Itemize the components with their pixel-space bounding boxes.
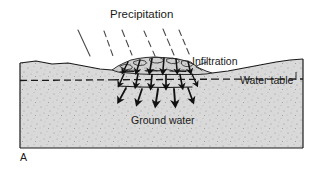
panel-letter: A bbox=[20, 152, 27, 163]
figure-panel: Precipitation Infiltration Water table G… bbox=[0, 0, 317, 169]
label-ground-water: Ground water bbox=[131, 115, 195, 126]
label-precipitation: Precipitation bbox=[110, 9, 173, 21]
precipitation-rain-lines bbox=[78, 29, 190, 56]
label-water-table: Water table bbox=[240, 75, 293, 86]
label-infiltration: Infiltration bbox=[192, 56, 238, 67]
